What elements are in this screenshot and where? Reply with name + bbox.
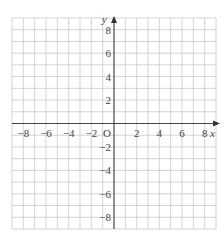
x-tick-label: −8 — [17, 127, 29, 139]
x-tick-label: −4 — [63, 127, 75, 139]
y-tick-label: 6 — [106, 47, 112, 59]
y-tick-label: −6 — [99, 188, 111, 200]
y-tick-label: −2 — [99, 141, 111, 153]
y-tick-label: 8 — [106, 24, 112, 36]
origin-label: O — [103, 127, 111, 139]
x-axis-arrow-icon — [213, 121, 220, 127]
y-tick-label: 2 — [106, 94, 112, 106]
y-tick-label: 4 — [106, 71, 112, 83]
x-tick-label: 6 — [179, 127, 185, 139]
y-axis-arrow-icon — [111, 16, 117, 23]
y-tick-label: −8 — [99, 211, 111, 223]
x-tick-label: −2 — [85, 127, 97, 139]
x-tick-label: 2 — [134, 127, 140, 139]
coordinate-plane: x y O −8−6−4−22468 8642−2−4−6−8 — [0, 0, 224, 241]
x-tick-label: −6 — [40, 127, 52, 139]
x-tick-label: 8 — [202, 127, 208, 139]
x-tick-label: 4 — [157, 127, 163, 139]
x-axis-label: x — [209, 127, 215, 139]
x-tick-labels: −8−6−4−22468 — [17, 127, 207, 139]
y-tick-label: −4 — [99, 164, 111, 176]
